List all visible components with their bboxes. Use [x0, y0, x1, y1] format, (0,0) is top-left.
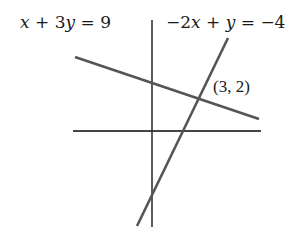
eq-text: = 9: [75, 12, 111, 32]
eq-text: + 3: [30, 12, 66, 32]
var-y: y: [65, 12, 75, 32]
coordinate-plane: [0, 0, 308, 235]
var-y: y: [226, 12, 236, 32]
eq-text: +: [201, 12, 226, 32]
var-x: x: [191, 12, 201, 32]
eq-text: = −4: [235, 12, 285, 32]
equation-label-line2: −2x + y = −4: [166, 14, 285, 31]
eq-text: −2: [166, 12, 191, 32]
intersection-point-label: (3, 2): [213, 78, 250, 95]
var-x: x: [20, 12, 30, 32]
equation-label-line1: x + 3y = 9: [20, 14, 111, 31]
